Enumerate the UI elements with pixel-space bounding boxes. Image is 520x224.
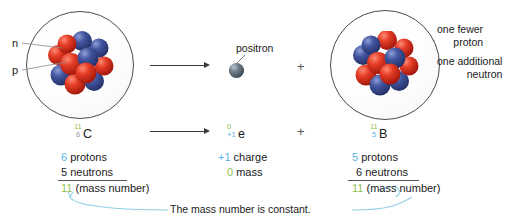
reaction-arrow-bottom-head — [204, 128, 210, 134]
one-additional-neutron-line1: one additional — [437, 55, 502, 67]
positron-label: positron — [236, 42, 273, 55]
carbon-total-row: 11 (mass number) — [61, 181, 149, 196]
carbon-isotope-notation: 11 6 C — [74, 124, 92, 141]
one-fewer-proton-line1: one fewer — [437, 23, 483, 35]
boron-protons-label: protons — [361, 151, 398, 163]
carbon-atomic-number: 6 — [76, 131, 80, 139]
positron-charge-label: charge — [234, 151, 268, 163]
plus-sign-top: + — [297, 60, 305, 73]
boron-tally: 5 protons 6 neutrons — [352, 150, 408, 180]
boron-protons-count: 5 — [352, 151, 358, 163]
one-additional-neutron-label: one additional neutron — [437, 55, 502, 81]
boron-neutrons-label: neutrons — [365, 166, 408, 178]
reaction-arrow-top-head — [204, 62, 210, 68]
reaction-arrow-top-line — [150, 65, 205, 66]
caption-text: The mass number is constant. — [170, 203, 311, 215]
plus-sign-bottom: + — [297, 125, 305, 138]
positron-sphere — [228, 62, 245, 83]
boron-total-row: 11 (mass number) — [352, 181, 440, 196]
boron-neutrons-count: 6 — [356, 166, 362, 178]
proton-label: p — [12, 64, 18, 77]
carbon-neutrons-label: neutrons — [70, 166, 113, 178]
positron-charge-value: +1 — [218, 151, 231, 163]
carbon-tally: 6 protons 5 neutrons — [61, 150, 113, 180]
boron-mass-total: 11 — [352, 182, 363, 194]
boron-protons-row: 5 protons — [352, 150, 408, 165]
boron-symbol: B — [379, 127, 387, 141]
carbon-neutrons-count: 5 — [61, 166, 67, 178]
positron-isotope-notation: 0 +1 e — [227, 124, 245, 141]
positron-tally: +1 charge 0 mass — [218, 150, 267, 180]
carbon-nucleus — [47, 31, 117, 97]
positron-mass-label: mass — [236, 166, 262, 178]
carbon-symbol: C — [83, 127, 92, 141]
positron-mass-row: 0 mass — [218, 165, 267, 180]
positron-charge-row: +1 charge — [218, 150, 267, 165]
one-fewer-proton-line2: proton — [453, 36, 483, 48]
carbon-mass-total: 11 — [61, 182, 72, 194]
carbon-neutrons-row: 5 neutrons — [61, 165, 113, 180]
boron-neutrons-row: 6 neutrons — [352, 165, 408, 180]
carbon-protons-row: 6 protons — [61, 150, 113, 165]
carbon-protons-count: 6 — [61, 151, 67, 163]
carbon-protons-label: protons — [70, 151, 107, 163]
decay-diagram: n p positron + — [0, 0, 520, 224]
positron-symbol: e — [238, 127, 245, 141]
positron-mass-value: 0 — [227, 166, 233, 178]
boron-isotope-notation: 11 5 B — [370, 124, 387, 141]
reaction-arrow-bottom-line — [150, 131, 205, 132]
neutron-label: n — [12, 37, 18, 50]
one-additional-neutron-line2: neutron — [467, 68, 503, 80]
boron-nucleus — [352, 31, 422, 97]
positron-charge-number: +1 — [227, 131, 236, 139]
boron-atomic-number: 5 — [372, 131, 376, 139]
boron-mass-total-label: (mass number) — [366, 182, 440, 194]
one-fewer-proton-label: one fewer proton — [437, 23, 483, 49]
carbon-mass-total-label: (mass number) — [75, 182, 149, 194]
